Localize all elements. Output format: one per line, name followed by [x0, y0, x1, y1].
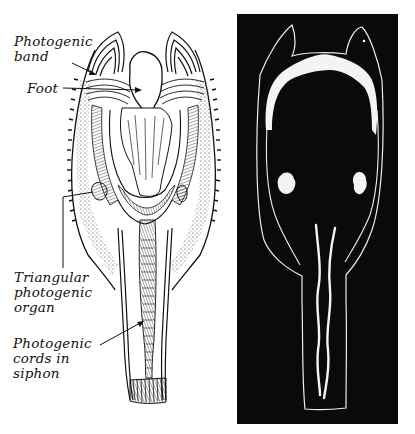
lobe-dot	[363, 40, 366, 43]
label-foot: Foot	[27, 81, 58, 96]
figure: Photogenic band Foot Triangular photogen…	[0, 0, 415, 434]
label-photogenic-band: Photogenic band	[14, 34, 93, 64]
label-photogenic-cords: Photogenic cords in siphon	[13, 336, 92, 381]
label-triangular-organ: Triangular photogenic organ	[14, 270, 92, 315]
